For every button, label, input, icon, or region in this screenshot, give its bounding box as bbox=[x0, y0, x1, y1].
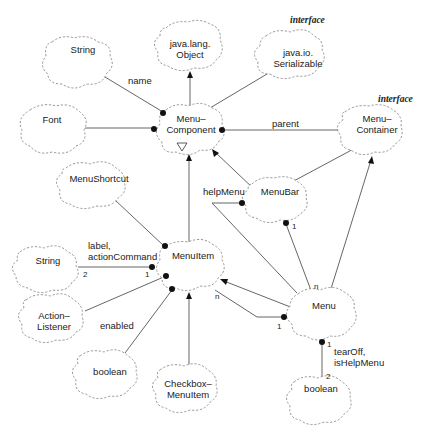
class-string-top[interactable]: String bbox=[58, 44, 108, 55]
role-parent: parent bbox=[272, 118, 299, 129]
class-menuitem[interactable]: MenuItem bbox=[168, 250, 218, 261]
class-string-mid[interactable]: String bbox=[24, 255, 72, 266]
mult-menubar-1: 1 bbox=[292, 222, 296, 231]
role-tearoff-ishelpmenu: tearOff, isHelpMenu bbox=[334, 346, 384, 368]
cloud-font[interactable] bbox=[20, 105, 86, 153]
class-java-io-serializable[interactable]: java.io. Serializable bbox=[268, 47, 328, 69]
mult-menu-1: 1 bbox=[277, 322, 281, 331]
role-label-actioncommand: label, actionCommand bbox=[88, 240, 157, 262]
class-font[interactable]: Font bbox=[30, 114, 74, 125]
class-boolean-left[interactable]: boolean bbox=[86, 366, 134, 377]
class-actionlistener[interactable]: Action– Listener bbox=[30, 310, 78, 332]
mult-menuitem-n: n bbox=[215, 292, 219, 301]
class-checkboxmenuitem[interactable]: Checkbox– MenuItem bbox=[160, 378, 216, 400]
class-menubar[interactable]: MenuBar bbox=[254, 186, 306, 197]
class-menushortcut[interactable]: MenuShortcut bbox=[66, 173, 132, 184]
role-enabled: enabled bbox=[100, 320, 134, 331]
mult-string-2: 2 bbox=[83, 270, 87, 279]
class-menucontainer[interactable]: Menu– Container bbox=[350, 113, 404, 135]
role-name: name bbox=[128, 75, 152, 86]
mult-menu-n: n bbox=[314, 282, 318, 291]
class-java-lang-object[interactable]: java.lang. Object bbox=[166, 38, 214, 60]
cloud-menubar[interactable] bbox=[242, 177, 307, 223]
cloud-menu[interactable] bbox=[286, 287, 356, 340]
cloud-menushortcut[interactable] bbox=[56, 162, 125, 209]
class-menucomponent[interactable]: Menu– Component bbox=[162, 113, 220, 135]
mult-bool-2: 2 bbox=[326, 372, 330, 381]
class-boolean-right[interactable]: boolean bbox=[296, 383, 346, 394]
class-menu[interactable]: Menu bbox=[300, 300, 348, 311]
stereotype-menucontainer: interface bbox=[378, 94, 413, 104]
mult-menuitem-1: 1 bbox=[145, 270, 149, 279]
stereotype-serializable: interface bbox=[290, 15, 325, 25]
role-helpmenu: helpMenu bbox=[203, 186, 245, 197]
cloud-string-mid[interactable] bbox=[12, 246, 78, 293]
diagram-canvas bbox=[0, 0, 430, 439]
mult-menu-bool-1: 1 bbox=[327, 340, 331, 349]
